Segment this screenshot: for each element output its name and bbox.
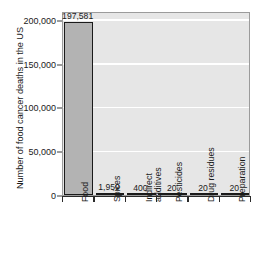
- x-axis-category-label-line: additives: [154, 167, 164, 202]
- y-axis-tick-label: 200,000: [10, 16, 56, 25]
- x-axis-category-label-line: Food: [81, 182, 91, 202]
- x-axis-category-label-line: Spices: [113, 176, 123, 202]
- bar-chart: Number of food cancer deaths in the US 0…: [0, 0, 268, 277]
- x-axis-category-label-line: Drug residues: [207, 147, 217, 202]
- x-axis-category-labels: FoodSpicesIndirectadditivesPesticidesDru…: [62, 200, 250, 277]
- bar-value-label: 197,581: [62, 12, 93, 21]
- y-axis-tick-label: 150,000: [10, 60, 56, 69]
- y-axis-tick-label: 50,000: [10, 148, 56, 157]
- x-axis-category-label-line: Pesticides: [175, 162, 185, 202]
- y-axis-tick-label: 0: [10, 192, 56, 201]
- x-axis-category-label-line: Preparation: [238, 157, 248, 202]
- y-axis-tick-label: 100,000: [10, 104, 56, 113]
- x-axis-tick-mark: [250, 196, 251, 202]
- y-axis-tick-labels: 050,000100,000150,000200,000: [10, 0, 56, 277]
